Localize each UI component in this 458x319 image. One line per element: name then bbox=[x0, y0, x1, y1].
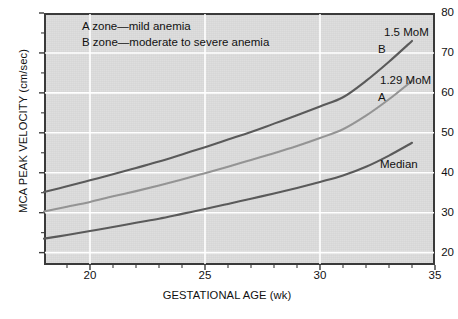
legend: A zone—mild anemia B zone—moderate to se… bbox=[82, 18, 269, 50]
annotation-mom-b: 1.5 MoM bbox=[384, 27, 429, 39]
legend-line-a: A zone—mild anemia bbox=[82, 18, 269, 34]
gridlines bbox=[45, 14, 434, 264]
curve-a bbox=[44, 81, 412, 212]
curve-b bbox=[44, 41, 412, 192]
x-tick-label: 35 bbox=[412, 270, 458, 282]
y-tick-label: 60 bbox=[416, 87, 454, 99]
y-tick-label: 70 bbox=[416, 47, 454, 59]
y-tick-label: 30 bbox=[416, 207, 454, 219]
x-tick-label: 25 bbox=[182, 270, 228, 282]
x-tick-label: 20 bbox=[67, 270, 113, 282]
annotation-median: Median bbox=[380, 159, 418, 171]
annotation-mom-a: 1.29 MoM bbox=[380, 75, 431, 87]
y-tick-label: 80 bbox=[416, 7, 454, 19]
y-tick-label: 20 bbox=[416, 247, 454, 259]
curve-median bbox=[44, 143, 412, 239]
annotation-zone-a: A bbox=[378, 92, 386, 104]
data-curves bbox=[44, 41, 412, 239]
axis-ticks-minor bbox=[41, 33, 412, 268]
axis-ticks-major bbox=[39, 13, 435, 270]
legend-line-b: B zone—moderate to severe anemia bbox=[82, 34, 269, 50]
annotation-zone-b: B bbox=[378, 44, 386, 56]
y-tick-label: 50 bbox=[416, 127, 454, 139]
y-axis-title: MCA PEAK VELOCITY (cm/sec) bbox=[17, 16, 29, 246]
x-axis-title: GESTATIONAL AGE (wk) bbox=[0, 289, 454, 301]
x-tick-label: 30 bbox=[297, 270, 343, 282]
y-tick-label: 40 bbox=[416, 167, 454, 179]
